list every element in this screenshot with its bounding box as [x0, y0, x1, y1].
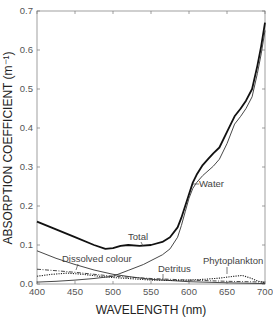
x-tick-label: 650 [219, 286, 235, 297]
y-tick-label: 0.4 [20, 122, 33, 133]
y-tick-label: 0.6 [20, 44, 33, 55]
x-tick-label: 500 [105, 286, 121, 297]
y-axis-title: ABSORPTION COEFFICIENT (m⁻¹) [1, 51, 15, 244]
x-axis-title: WAVELENGTH (nm) [96, 303, 207, 317]
y-tick-label: 0.1 [20, 239, 33, 250]
x-tick-label: 700 [257, 286, 273, 297]
series-lines [37, 23, 265, 284]
x-tick-label: 450 [67, 286, 83, 297]
annotations: Total Water Dissolved colour Detritus Ph… [62, 178, 263, 280]
series-total [37, 23, 265, 249]
label-water: Water [199, 178, 224, 189]
absorption-chart: 4004505005506006507000.00.10.20.30.40.50… [0, 0, 273, 321]
y-tick-label: 0.0 [20, 278, 33, 289]
y-tick-label: 0.7 [20, 5, 33, 16]
x-tick-label: 550 [143, 286, 159, 297]
y-tick-label: 0.2 [20, 200, 33, 211]
plot-axes: 4004505005506006507000.00.10.20.30.40.50… [20, 5, 273, 297]
y-tick-label: 0.5 [20, 83, 33, 94]
y-tick-label: 0.3 [20, 161, 33, 172]
label-detritus: Detritus [158, 263, 191, 274]
x-tick-label: 600 [181, 286, 197, 297]
plot-frame [37, 11, 265, 284]
label-total: Total [128, 231, 148, 242]
label-phytoplankton: Phytoplankton [203, 255, 263, 266]
label-dissolved-colour: Dissolved colour [62, 253, 132, 264]
